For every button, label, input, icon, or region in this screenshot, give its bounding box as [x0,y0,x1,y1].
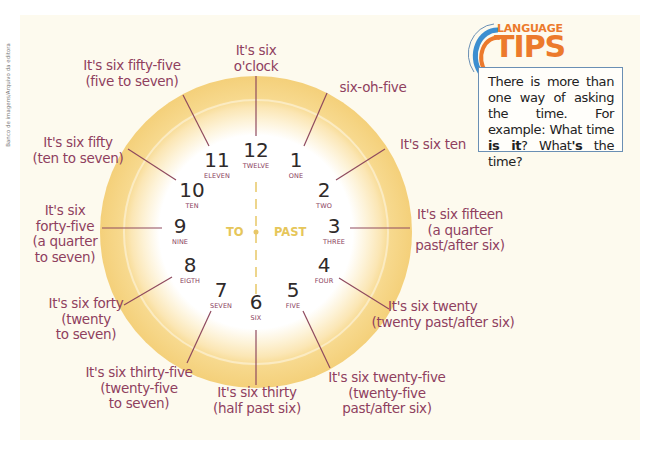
hour-5: 5 [273,280,313,300]
label-six-ten: It's six ten [388,137,478,153]
hour-11: 11 [197,150,237,170]
label-six-twenty-five: It's six twenty-five(twenty-fivepast/aft… [322,370,452,417]
hour-8-word: EIGTH [160,277,220,285]
to-label: TO [226,225,244,239]
hour-2-word: TWO [294,202,354,210]
hour-1-word: ONE [266,172,326,180]
label-six-twenty: It's six twenty(twenty past/after six) [368,299,518,330]
hour-11-word: ELEVEN [187,172,247,180]
label-six-thirty-five: It's six thirty-five(twenty-fiveto seven… [74,365,204,412]
hour-3-word: THREE [304,238,364,246]
hour-6-word: SIX [226,314,286,322]
hour-2: 2 [304,180,344,200]
tips-box: There is more than one way of asking the… [478,67,623,152]
hour-4: 4 [304,255,344,275]
past-label: PAST [274,225,306,239]
hour-8: 8 [170,255,210,275]
hour-12: 12 [236,140,276,160]
label-six-forty-five: It's sixforty-five(a quarterto seven) [30,203,100,265]
label-six-fifteen: It's six fifteen(a quarterpast/after six… [410,207,510,254]
hour-9: 9 [160,216,200,236]
hour-10: 10 [172,180,212,200]
label-six-fifty: It's six fifty(ten to seven) [32,135,124,166]
label-six-forty: It's six forty(twentyto seven) [46,296,126,343]
tips-text: There is more than one way of asking the… [488,74,614,170]
hour-3: 3 [314,216,354,236]
hour-9-word: NINE [150,238,210,246]
label-oclock: It's sixo'clock [230,43,282,74]
hour-1: 1 [276,150,316,170]
label-six-oh-five: six-oh-five [328,80,418,96]
label-six-thirty: It's six thirty(half past six) [212,385,302,416]
label-six-fifty-five: It's six fifty-five(five to seven) [80,58,184,89]
hour-7-word: SEVEN [191,302,251,310]
hour-10-word: TEN [162,202,222,210]
tips-logo-title: TIPS [494,32,565,62]
